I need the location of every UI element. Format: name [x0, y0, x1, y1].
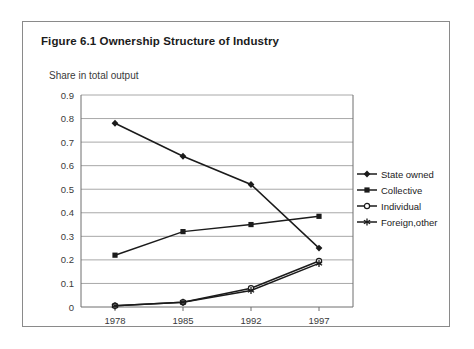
- y-axis-tick-labels: 00.10.20.30.40.50.60.70.80.9: [61, 90, 74, 313]
- data-point-marker: [364, 171, 371, 178]
- legend-item-label: Foreign,other: [378, 217, 438, 228]
- x-tick-label: 1978: [104, 315, 125, 326]
- data-point-marker: [248, 222, 253, 227]
- y-tick-label: 0.3: [61, 231, 74, 242]
- x-tick-label: 1997: [308, 315, 329, 326]
- open-circle-icon: [356, 200, 378, 212]
- y-tick-label: 0.4: [61, 207, 74, 218]
- data-point-marker: [180, 153, 187, 160]
- data-point-marker: [316, 214, 321, 219]
- legend-item[interactable]: Foreign,other: [356, 214, 452, 230]
- data-point-marker: [364, 203, 369, 208]
- y-tick-label: 0.8: [61, 113, 74, 124]
- axis-lines: [81, 95, 353, 311]
- legend-item-label: Collective: [378, 185, 422, 196]
- series-line: [115, 263, 319, 305]
- series-line: [115, 216, 319, 255]
- legend-item[interactable]: Collective: [356, 182, 452, 198]
- y-tick-label: 0.6: [61, 160, 74, 171]
- y-tick-label: 0.5: [61, 184, 74, 195]
- x-tick-label: 1992: [240, 315, 261, 326]
- data-point-marker: [112, 120, 119, 127]
- data-point-marker: [112, 253, 117, 258]
- x-tick-label: 1985: [172, 315, 193, 326]
- data-point-marker: [180, 229, 185, 234]
- data-series-layer: [112, 120, 323, 310]
- legend-item[interactable]: State owned: [356, 166, 452, 182]
- y-tick-label: 0.2: [61, 254, 74, 265]
- figure-frame: Figure 6.1 Ownership Structure of Indust…: [22, 21, 450, 327]
- filled-square-icon: [356, 184, 378, 196]
- y-tick-label: 0.7: [61, 137, 74, 148]
- y-tick-label: 0.1: [61, 278, 74, 289]
- data-point-marker: [364, 187, 369, 192]
- legend-item-label: Individual: [378, 201, 421, 212]
- y-tick-label: 0: [69, 302, 74, 313]
- chart-legend: State ownedCollectiveIndividualForeign,o…: [356, 166, 452, 230]
- legend-item-label: State owned: [378, 169, 434, 180]
- filled-diamond-icon: [356, 168, 378, 180]
- y-tick-label: 0.9: [61, 90, 74, 101]
- data-series: [112, 214, 321, 258]
- data-series: [112, 120, 323, 252]
- asterisk-icon: [356, 216, 378, 228]
- x-axis-tick-labels: 1978198519921997: [104, 315, 329, 326]
- data-series: [112, 260, 322, 310]
- legend-item[interactable]: Individual: [356, 198, 452, 214]
